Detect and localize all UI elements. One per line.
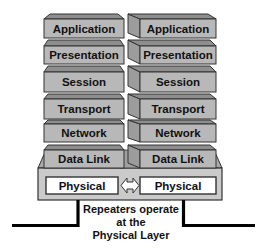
right-label-data-link: Data Link [152,153,204,165]
right-cable [184,200,256,226]
left-label-network: Network [61,127,107,139]
right-layer-data-link: Data Link [128,145,216,168]
left-label-session: Session [62,76,106,88]
right-label-physical: Physical [155,180,202,192]
caption: Repeaters operate at the Physical Layer [83,203,179,241]
left-label-transport: Transport [57,103,110,115]
left-label-data-link: Data Link [58,153,110,165]
caption-line-3: Physical Layer [92,229,170,241]
right-layer-transport: Transport [128,94,216,119]
left-osi-stack: Application Presentation Session Transpo… [44,14,124,194]
right-layer-presentation: Presentation [128,40,216,64]
right-osi-stack: Application Presentation Session Transpo… [128,14,216,194]
caption-line-2: at the [116,216,145,228]
right-layer-physical: Physical [140,177,216,194]
right-label-transport: Transport [151,103,204,115]
left-layer-presentation: Presentation [44,40,124,64]
left-layer-transport: Transport [44,94,124,119]
left-layer-session: Session [44,66,124,92]
caption-line-1: Repeaters operate [83,203,179,215]
right-layer-network: Network [128,120,216,142]
left-layer-data-link: Data Link [44,145,124,168]
left-layer-network: Network [44,120,124,142]
right-label-application: Application [147,23,210,35]
right-layer-application: Application [128,14,216,38]
left-layer-application: Application [44,14,124,38]
left-label-physical: Physical [59,180,106,192]
right-label-session: Session [156,76,200,88]
right-label-presentation: Presentation [143,49,213,61]
left-label-presentation: Presentation [49,49,119,61]
left-layer-physical: Physical [46,177,118,194]
left-label-application: Application [53,23,116,35]
osi-repeater-diagram: Application Presentation Session Transpo… [0,0,268,252]
right-layer-session: Session [128,66,216,92]
left-cable [12,200,78,226]
right-label-network: Network [155,127,201,139]
